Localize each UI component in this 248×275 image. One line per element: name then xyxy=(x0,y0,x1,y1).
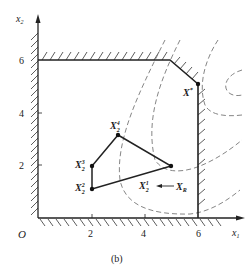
label-p1: X12 xyxy=(138,180,149,193)
points xyxy=(90,82,200,191)
y-tick-2: 2 xyxy=(19,160,24,171)
y-tick-6: 6 xyxy=(19,55,24,66)
label-reflect: XR xyxy=(175,181,187,193)
x-axis-arrow-icon xyxy=(236,216,245,221)
figure-caption: (b) xyxy=(111,253,123,265)
feasible-boundary xyxy=(38,60,198,218)
label-p4: X42 xyxy=(109,120,120,133)
y-axis-label: x2 xyxy=(15,13,23,25)
point-p1 xyxy=(169,164,173,168)
point-p3 xyxy=(90,164,94,168)
label-optimum: X* xyxy=(182,87,194,98)
point-p4 xyxy=(116,133,120,137)
x-axis-label: x1 xyxy=(231,227,239,239)
point-p2 xyxy=(90,187,94,191)
reflection-arrow-head-icon xyxy=(156,184,162,188)
simplex-polygon xyxy=(92,135,171,189)
y-axis-arrow-icon xyxy=(36,14,41,23)
axes xyxy=(38,22,238,218)
y-tick-4: 4 xyxy=(19,108,24,119)
label-p2: X22 xyxy=(74,182,85,195)
contour-4 xyxy=(226,70,242,96)
point-optimum xyxy=(196,82,200,86)
x-tick-6: 6 xyxy=(196,228,201,239)
contour-3 xyxy=(202,40,242,116)
origin-label: O xyxy=(18,228,26,240)
label-p3: X32 xyxy=(74,159,85,172)
x-tick-2: 2 xyxy=(88,228,93,239)
optimization-diagram: x2 x1 O 6 4 2 2 4 6 X42 X32 X22 X12 XR X… xyxy=(0,0,248,275)
x-tick-4: 4 xyxy=(141,228,146,239)
